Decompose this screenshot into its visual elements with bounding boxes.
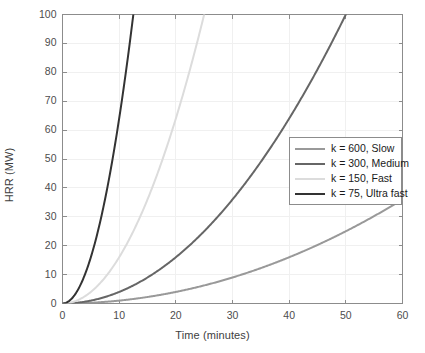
legend-item[interactable]: k = 150, Fast [290, 171, 401, 186]
y-tick-label: 20 [27, 239, 57, 251]
legend-item[interactable]: k = 75, Ultra fast [290, 186, 401, 201]
legend-item[interactable]: k = 600, Slow [290, 141, 401, 156]
series-line [63, 0, 222, 304]
chart-figure: HRR (MW) Time (minutes) 0102030405060708… [0, 0, 425, 353]
y-tick-label: 70 [27, 94, 57, 106]
x-tick-label: 60 [388, 309, 418, 321]
chart-legend[interactable]: k = 600, Slowk = 300, Mediumk = 150, Fas… [289, 137, 402, 205]
y-tick-label: 0 [27, 297, 57, 309]
legend-line-swatch [295, 193, 325, 195]
y-tick-label: 40 [27, 181, 57, 193]
legend-item[interactable]: k = 300, Medium [290, 156, 401, 171]
y-tick-label: 100 [27, 8, 57, 20]
legend-line-swatch [295, 178, 325, 180]
y-tick-label: 60 [27, 123, 57, 135]
legend-line-swatch [295, 148, 325, 150]
y-tick-label: 80 [27, 65, 57, 77]
legend-label: k = 75, Ultra fast [331, 188, 408, 199]
x-axis-label: Time (minutes) [0, 329, 425, 341]
x-tick-label: 0 [48, 309, 78, 321]
y-tick-label: 90 [27, 36, 57, 48]
y-tick-label: 30 [27, 210, 57, 222]
x-tick-label: 10 [104, 309, 134, 321]
y-tick-label: 50 [27, 152, 57, 164]
x-tick-label: 50 [331, 309, 361, 321]
y-axis-label: HRR (MW) [2, 120, 16, 230]
legend-label: k = 300, Medium [331, 158, 409, 169]
legend-label: k = 150, Fast [331, 173, 392, 184]
x-tick-label: 40 [274, 309, 304, 321]
series-line [63, 0, 143, 304]
legend-label: k = 600, Slow [331, 143, 394, 154]
legend-line-swatch [295, 163, 325, 165]
y-tick-label: 10 [27, 268, 57, 280]
x-tick-label: 20 [161, 309, 191, 321]
x-tick-label: 30 [218, 309, 248, 321]
